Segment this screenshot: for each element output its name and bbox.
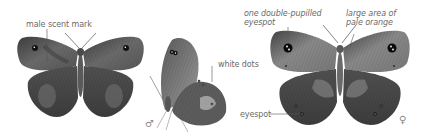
female-upperside-butterfly (270, 25, 409, 125)
label-double-pupilled-eyespot-line1: one double-pupilled (244, 9, 322, 18)
male-symbol-icon: ♂ (145, 119, 154, 129)
female-symbol-icon: ♀ (399, 115, 406, 125)
male-underside-butterfly (150, 38, 226, 132)
male-upperside-butterfly (17, 33, 144, 117)
label-white-dots: white dots (218, 60, 259, 69)
butterfly-figure: male scent mark white dots one double-pu… (0, 0, 424, 139)
label-pale-orange-line2: pale orange (346, 18, 393, 27)
label-double-pupilled-eyespot-line2: eyespot (244, 18, 275, 27)
label-eyespot: eyespot (240, 110, 271, 119)
label-male-scent-mark: male scent mark (26, 20, 92, 29)
label-pale-orange-line1: large area of (346, 9, 396, 18)
